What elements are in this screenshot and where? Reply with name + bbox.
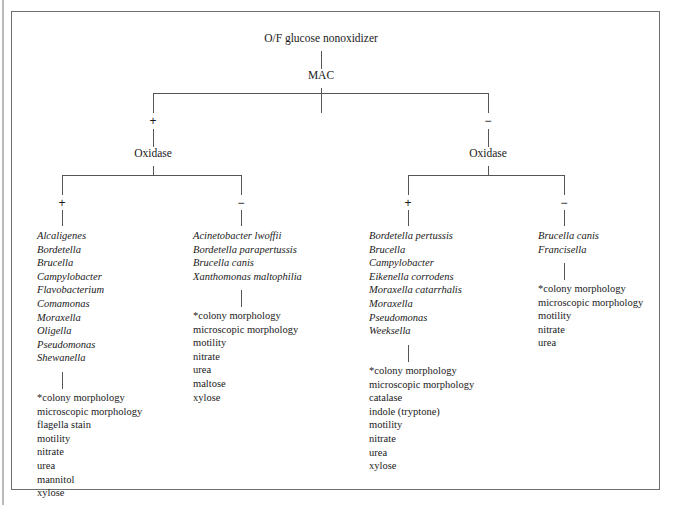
list-item: Flavobacterium	[37, 283, 104, 297]
list-item: Brucella canis	[538, 229, 599, 243]
list-item: Eikenella corrodens	[369, 270, 462, 284]
sign-oxidase-right-positive: +	[404, 197, 411, 209]
list-item: Alcaligenes	[37, 229, 104, 243]
list-item: *colony morphology	[369, 364, 474, 378]
split-bar-oxidase-left	[62, 175, 242, 176]
list-item: urea	[193, 363, 298, 377]
list-item: Acinetobacter lwoffii	[193, 229, 302, 243]
list-item: *colony morphology	[193, 309, 298, 323]
list-item: nitrate	[538, 323, 643, 337]
sign-oxidase-right-negative: −	[560, 197, 567, 209]
sign-mac-negative: −	[484, 115, 491, 127]
list-item: Francisella	[538, 243, 599, 257]
connector-branch4-to-organisms	[564, 210, 565, 226]
split-stem-oxidase-right-positive	[408, 175, 409, 195]
list-item: flagella stain	[37, 418, 142, 432]
split-stem-oxidase-left-positive	[62, 175, 63, 195]
list-item: catalase	[369, 391, 474, 405]
list-item: Brucella	[369, 243, 462, 257]
list-item: Bordetella pertussis	[369, 229, 462, 243]
list-item: Moraxella	[37, 311, 104, 325]
oxidase-right-node-label: Oxidase	[469, 147, 507, 160]
split-bar-oxidase-right	[408, 175, 565, 176]
connector-branch3-to-organisms	[408, 210, 409, 226]
list-item: microscopic morphology	[369, 378, 474, 392]
list-item: Campylobacter	[369, 256, 462, 270]
root-node-label: O/F glucose nonoxidizer	[264, 32, 378, 45]
sign-oxidase-left-positive: +	[58, 197, 65, 209]
list-item: mannitol	[37, 473, 142, 487]
list-item: xylose	[369, 459, 474, 473]
list-item: nitrate	[369, 432, 474, 446]
list-item: xylose	[193, 391, 298, 405]
sign-mac-positive: +	[149, 115, 156, 127]
organism-list-branch2: Acinetobacter lwoffiiBordetella parapert…	[193, 229, 302, 283]
connector-oxidase-left-to-split	[153, 166, 154, 175]
list-item: Brucella canis	[193, 256, 302, 270]
list-item: Weeksella	[369, 324, 462, 338]
list-item: Brucella	[37, 256, 104, 270]
list-item: xylose	[37, 486, 142, 500]
split-stem-oxidase-right-negative	[564, 175, 565, 195]
list-item: motility	[369, 418, 474, 432]
connector-root-to-mac	[321, 51, 322, 69]
connector-branch3-organisms-to-tests	[408, 345, 409, 362]
list-item: indole (tryptone)	[369, 405, 474, 419]
connector-branch4-organisms-to-tests	[564, 263, 565, 280]
connector-branch2-to-organisms	[241, 210, 242, 226]
list-item: Campylobacter	[37, 270, 104, 284]
organism-list-branch3: Bordetella pertussisBrucellaCampylobacte…	[369, 229, 462, 338]
split-stem-oxidase-left-negative	[241, 175, 242, 195]
list-item: microscopic morphology	[37, 405, 142, 419]
mac-node-label: MAC	[308, 69, 334, 82]
list-item: urea	[37, 459, 142, 473]
list-item: urea	[369, 446, 474, 460]
connector-branch1-organisms-to-tests	[62, 372, 63, 389]
list-item: motility	[37, 432, 142, 446]
list-item: Oligella	[37, 324, 104, 338]
test-list-branch4: *colony morphologymicroscopic morphology…	[538, 282, 643, 350]
test-list-branch2: *colony morphologymicroscopic morphology…	[193, 309, 298, 404]
list-item: Bordetella	[37, 243, 104, 257]
diagram-frame: O/F glucose nonoxidizer MAC + − Oxidase …	[11, 11, 660, 490]
list-item: Moraxella catarrhalis	[369, 283, 462, 297]
sign-oxidase-left-negative: −	[237, 197, 244, 209]
list-item: Shewanella	[37, 351, 104, 365]
list-item: *colony morphology	[37, 391, 142, 405]
split-bar-mac	[153, 93, 489, 94]
list-item: motility	[193, 336, 298, 350]
list-item: Pseudomonas	[369, 311, 462, 325]
list-item: *colony morphology	[538, 282, 643, 296]
page-edge-strip	[2, 0, 4, 505]
list-item: microscopic morphology	[538, 296, 643, 310]
list-item: nitrate	[193, 350, 298, 364]
organism-list-branch4: Brucella canisFrancisella	[538, 229, 599, 256]
split-stem-mac-positive	[153, 93, 154, 113]
connector-branch1-to-organisms	[62, 210, 63, 226]
list-item: maltose	[193, 377, 298, 391]
list-item: urea	[538, 336, 643, 350]
list-item: motility	[538, 309, 643, 323]
list-item: Comamonas	[37, 297, 104, 311]
list-item: Bordetella parapertussis	[193, 243, 302, 257]
test-list-branch1: *colony morphologymicroscopic morphology…	[37, 391, 142, 500]
connector-mac-neg-to-oxidase	[488, 129, 489, 147]
connector-branch2-organisms-to-tests	[241, 290, 242, 307]
list-item: Pseudomonas	[37, 338, 104, 352]
organism-list-branch1: AlcaligenesBordetellaBrucellaCampylobact…	[37, 229, 104, 365]
test-list-branch3: *colony morphologymicroscopic morphology…	[369, 364, 474, 473]
list-item: nitrate	[37, 445, 142, 459]
list-item: Moraxella	[369, 297, 462, 311]
split-stem-mac-negative	[488, 93, 489, 113]
oxidase-left-node-label: Oxidase	[134, 147, 172, 160]
connector-mac-pos-to-oxidase	[153, 129, 154, 147]
list-item: microscopic morphology	[193, 323, 298, 337]
list-item: Xanthomonas maltophilia	[193, 270, 302, 284]
connector-oxidase-right-to-split	[488, 166, 489, 175]
connector-mac-to-split	[321, 88, 322, 113]
